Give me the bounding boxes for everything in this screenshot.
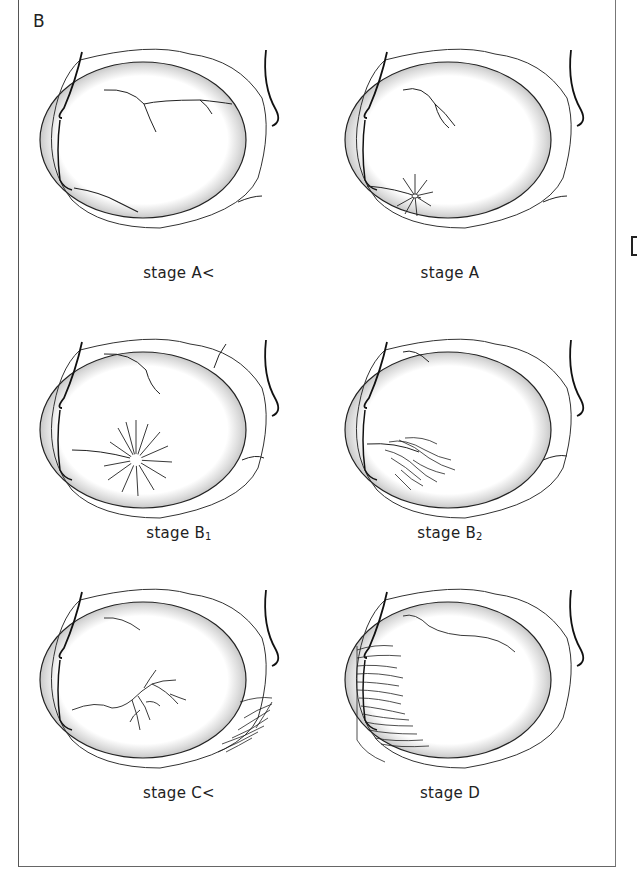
stage-label: stage C< [34,784,324,802]
stage-b2-cell: stage B2 [305,290,595,570]
stage-label: stage B1 [34,524,324,542]
stage-label: stage D [305,784,595,802]
stage-c-less-cell: stage C< [0,570,290,810]
cropped-panel-letter [631,236,637,256]
stage-label: stage A< [34,264,324,282]
stage-label: stage B2 [305,524,595,542]
stage-b1-cell: stage B1 [0,290,290,570]
stage-a-less-cell: stage A< [0,0,290,290]
stage-a-cell: stage A [305,0,595,290]
fundus-drawing-icon [0,0,300,260]
fundus-drawing-icon [305,290,605,540]
fundus-drawing-icon [305,0,605,260]
stage-d-cell: stage D [305,570,595,810]
fundus-drawing-icon [0,290,300,540]
fundus-drawing-icon [0,570,300,800]
stage-label: stage A [305,264,595,282]
fundus-drawing-icon [305,570,605,800]
